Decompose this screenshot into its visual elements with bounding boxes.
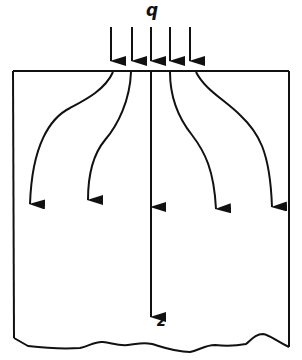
load-label-q: q — [146, 2, 158, 19]
stress-path-far-right — [196, 72, 272, 207]
depth-axis-label-z: z — [157, 314, 166, 329]
load-arrows — [111, 27, 190, 61]
stress-path-far-left — [30, 72, 113, 204]
stress-paths — [30, 72, 272, 317]
stress-path-right — [170, 72, 216, 209]
stress-path-left — [88, 72, 131, 200]
soil-bottom-break-line — [14, 334, 289, 352]
diagram-canvas — [0, 0, 302, 360]
soil-left-edge — [13, 71, 14, 338]
stress-distribution-diagram: q z — [0, 0, 302, 360]
